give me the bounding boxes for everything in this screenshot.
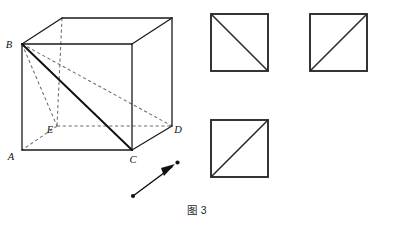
arrow-start-dot <box>131 194 135 198</box>
cube-hidden-edges <box>22 18 172 150</box>
square-bottom-middle <box>211 120 268 177</box>
arrow-end-dot <box>175 160 179 164</box>
hidden-edge-G-E <box>57 18 62 126</box>
square-top-right-diagonal <box>310 14 367 71</box>
cube-construction-lines <box>22 44 172 150</box>
square-bottom-middle-diagonal <box>211 120 268 177</box>
construction-line-B-D <box>22 44 172 126</box>
edge-F-H <box>132 18 172 44</box>
edge-B-G <box>22 18 62 44</box>
edge-C-D <box>132 126 172 150</box>
geometry-figure: B A E C D 图 3 <box>0 0 394 229</box>
diagonal-B-C <box>22 44 132 150</box>
square-top-right <box>310 14 367 71</box>
cube-group: B A E C D <box>6 18 182 165</box>
construction-line-B-E <box>22 44 57 126</box>
vertex-label-B: B <box>6 39 13 50</box>
vertex-label-E: E <box>46 124 54 135</box>
figure-canvas: B A E C D <box>0 0 394 229</box>
vertex-label-A: A <box>7 151 15 162</box>
vertex-label-C: C <box>129 154 137 165</box>
square-top-left-diagonal <box>211 14 268 71</box>
figure-caption: 图 3 <box>0 202 394 217</box>
vertex-label-D: D <box>173 124 182 135</box>
direction-arrow <box>131 160 180 198</box>
square-top-left <box>211 14 268 71</box>
cube-visible-edges <box>22 18 172 150</box>
